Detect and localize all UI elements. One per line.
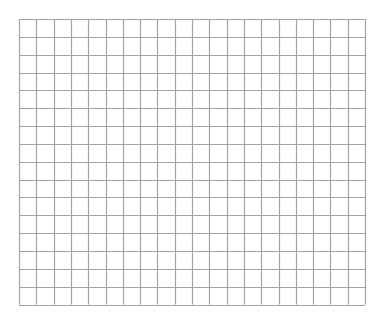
- blank-grid: [0, 0, 384, 321]
- grid-lines: [0, 0, 384, 321]
